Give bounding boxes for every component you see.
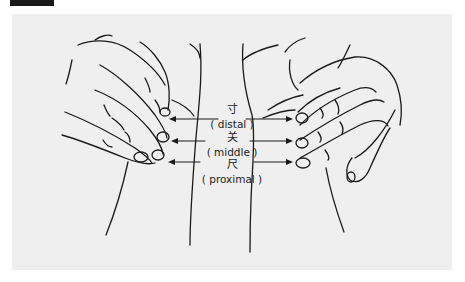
label-distal: ( distal ) [192, 118, 272, 130]
label-proximal: ( proximal ) [192, 173, 272, 185]
label-chi-chinese: 尺 [192, 159, 272, 171]
label-guan-chinese: 关 [192, 132, 272, 144]
label-middle: ( middle ) [192, 146, 272, 158]
label-cun-chinese: 寸 [192, 104, 272, 116]
